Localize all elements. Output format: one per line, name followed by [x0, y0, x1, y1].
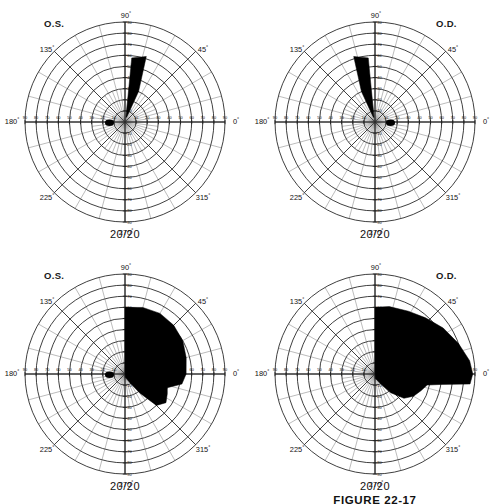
svg-text:315°: 315°: [196, 444, 210, 454]
svg-text:60: 60: [56, 115, 61, 120]
svg-text:30: 30: [340, 115, 345, 120]
svg-text:80: 80: [284, 115, 289, 120]
svg-text:80: 80: [212, 367, 217, 372]
svg-text:10: 10: [134, 115, 139, 120]
svg-text:45°: 45°: [198, 296, 208, 306]
visual-field-panel-bottom-right: 1010101020202020303030304040404050505050…: [250, 252, 500, 504]
svg-text:70: 70: [295, 115, 300, 120]
svg-text:40: 40: [127, 416, 132, 421]
svg-text:40: 40: [377, 416, 382, 421]
svg-text:40: 40: [78, 367, 83, 372]
svg-text:90: 90: [223, 115, 228, 120]
svg-text:20: 20: [377, 394, 382, 399]
svg-text:50: 50: [317, 115, 322, 120]
svg-text:70: 70: [45, 115, 50, 120]
svg-text:40: 40: [417, 115, 422, 120]
svg-text:45°: 45°: [448, 296, 458, 306]
visual-field-panel-top-left: 1010101020202020303030304040404050505050…: [0, 0, 250, 252]
svg-text:80: 80: [462, 115, 467, 120]
visual-field-panel-top-right: 1010101020202020303030304040404050505050…: [250, 0, 500, 252]
svg-text:0°: 0°: [483, 116, 489, 126]
svg-text:60: 60: [306, 367, 311, 372]
svg-text:60: 60: [190, 367, 195, 372]
svg-text:40: 40: [328, 367, 333, 372]
visual-field-panel-bottom-left: 1010101020202020303030304040404050505050…: [0, 252, 250, 504]
svg-text:180°: 180°: [5, 368, 19, 378]
svg-text:180°: 180°: [5, 116, 19, 126]
svg-text:40: 40: [167, 115, 172, 120]
svg-text:80: 80: [34, 367, 39, 372]
svg-text:10: 10: [384, 115, 389, 120]
svg-text:135°: 135°: [290, 296, 304, 306]
svg-text:60: 60: [306, 115, 311, 120]
svg-text:20: 20: [377, 142, 382, 147]
visual-field-chart-grid: 1010101020202020303030304040404050505050…: [0, 0, 500, 504]
svg-text:0°: 0°: [233, 116, 239, 126]
svg-text:90: 90: [23, 367, 28, 372]
visual-acuity-label: 20/20: [0, 480, 250, 492]
visual-field-plot: 1010101020202020303030304040404050505050…: [250, 252, 500, 504]
svg-text:60: 60: [190, 115, 195, 120]
svg-text:60: 60: [56, 367, 61, 372]
eye-label: O.S.: [44, 270, 64, 281]
svg-text:70: 70: [45, 367, 50, 372]
svg-text:90: 90: [273, 367, 278, 372]
svg-text:20: 20: [395, 115, 400, 120]
svg-text:45°: 45°: [198, 44, 208, 54]
svg-text:80: 80: [284, 367, 289, 372]
svg-text:50: 50: [317, 367, 322, 372]
svg-text:50: 50: [67, 115, 72, 120]
eye-label: O.D.: [436, 18, 457, 29]
svg-text:20: 20: [127, 142, 132, 147]
svg-text:135°: 135°: [40, 44, 54, 54]
scotoma-region: [354, 56, 374, 117]
svg-text:180°: 180°: [255, 368, 269, 378]
svg-text:70: 70: [201, 115, 206, 120]
visual-acuity-label: 20/20: [250, 480, 500, 492]
svg-text:20: 20: [145, 115, 150, 120]
svg-text:30: 30: [377, 405, 382, 410]
svg-text:90: 90: [273, 115, 278, 120]
svg-text:30: 30: [377, 86, 382, 91]
svg-text:70: 70: [295, 367, 300, 372]
visual-acuity-label: 20/20: [0, 228, 250, 240]
svg-text:80: 80: [212, 115, 217, 120]
svg-text:30: 30: [340, 367, 345, 372]
svg-text:90: 90: [23, 115, 28, 120]
svg-text:0°: 0°: [233, 368, 239, 378]
eye-label: O.D.: [436, 270, 457, 281]
svg-text:135°: 135°: [40, 296, 54, 306]
scotoma-region: [375, 307, 473, 399]
visual-field-plot: 1010101020202020303030304040404050505050…: [250, 0, 500, 252]
svg-text:225°: 225°: [290, 192, 304, 202]
svg-text:50: 50: [67, 367, 72, 372]
svg-text:0°: 0°: [483, 368, 489, 378]
svg-text:30: 30: [406, 115, 411, 120]
svg-text:225°: 225°: [40, 192, 54, 202]
svg-text:70: 70: [451, 115, 456, 120]
svg-text:30: 30: [156, 115, 161, 120]
svg-text:40: 40: [328, 115, 333, 120]
svg-text:180°: 180°: [255, 116, 269, 126]
svg-text:30: 30: [127, 405, 132, 410]
svg-text:30: 30: [90, 367, 95, 372]
svg-text:30: 30: [377, 153, 382, 158]
svg-text:90: 90: [473, 115, 478, 120]
svg-text:45°: 45°: [448, 44, 458, 54]
svg-text:135°: 135°: [290, 44, 304, 54]
svg-text:80: 80: [34, 115, 39, 120]
svg-text:40: 40: [127, 164, 132, 169]
svg-text:30: 30: [127, 153, 132, 158]
svg-text:40: 40: [377, 164, 382, 169]
svg-text:315°: 315°: [196, 192, 210, 202]
svg-text:315°: 315°: [446, 192, 460, 202]
svg-text:90: 90: [223, 367, 228, 372]
visual-acuity-label: 20/20: [250, 228, 500, 240]
visual-field-plot: 1010101020202020303030304040404050505050…: [0, 252, 250, 504]
figure-caption: FIGURE 22-17: [250, 494, 500, 504]
svg-text:50: 50: [428, 115, 433, 120]
svg-text:20: 20: [377, 97, 382, 102]
svg-text:70: 70: [201, 367, 206, 372]
svg-text:60: 60: [440, 115, 445, 120]
svg-text:30: 30: [90, 115, 95, 120]
